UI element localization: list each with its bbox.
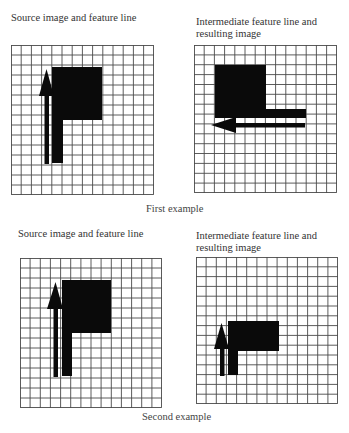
first-result-caption-line1: Intermediate feature line and — [196, 16, 317, 28]
first-source-panel — [11, 45, 154, 195]
second-result-caption-line1: Intermediate feature line and — [196, 230, 317, 242]
flag-shape — [52, 67, 102, 163]
feature-line-arrow-left-icon — [211, 117, 305, 133]
second-source-panel — [20, 258, 162, 408]
second-source-grid — [20, 258, 162, 408]
second-source-caption: Source image and feature line — [18, 228, 143, 240]
second-result-caption-line2: resulting image — [196, 242, 261, 254]
scaled-flag-shape — [228, 321, 279, 375]
second-result-grid — [196, 257, 338, 404]
first-result-grid — [194, 45, 337, 193]
rotated-flag-shape — [215, 65, 306, 118]
flag-shape — [62, 280, 111, 376]
first-source-grid — [11, 45, 154, 195]
first-example-label: First example — [146, 203, 203, 215]
first-source-caption: Source image and feature line — [11, 12, 136, 24]
first-result-caption-line2: resulting image — [196, 28, 261, 40]
first-result-panel — [194, 45, 337, 193]
second-example-label: Second example — [142, 411, 211, 423]
second-result-panel — [196, 257, 338, 404]
